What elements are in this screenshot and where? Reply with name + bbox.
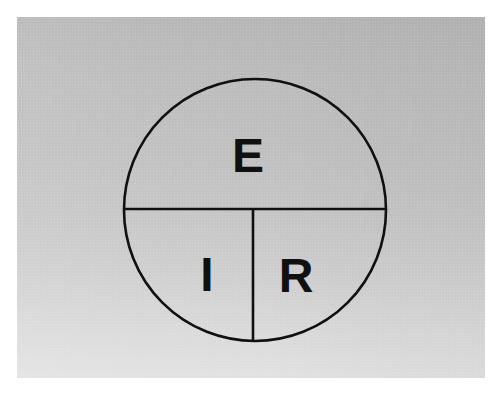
sector-label-current: I [200, 248, 213, 301]
sector-label-voltage: E [232, 129, 264, 182]
ohms-law-circle-diagram: E I R [0, 0, 502, 399]
sector-label-resistance: R [279, 249, 314, 302]
screenshot-canvas: E I R [0, 0, 502, 399]
